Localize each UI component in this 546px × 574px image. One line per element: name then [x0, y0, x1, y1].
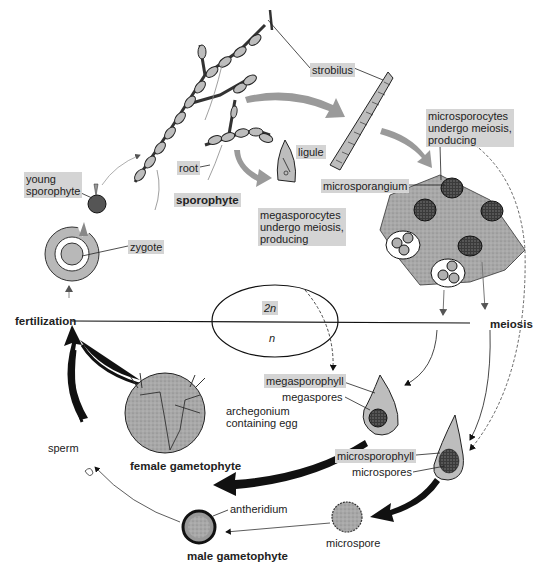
young-sporophyte-line-1: young: [26, 173, 56, 185]
label-microspores: microspores: [352, 466, 412, 478]
label-strobilus: strobilus: [310, 63, 355, 77]
strobilus-drawing: [328, 71, 393, 170]
female-gametophyte-drawing: [125, 373, 205, 453]
sporophyte-plant: [132, 10, 274, 210]
ploidy-divider: [72, 285, 470, 357]
label-ligule: ligule: [296, 145, 326, 159]
label-haploid: n: [269, 332, 275, 344]
megasporocytes-line-1: megasporocytes: [260, 209, 341, 221]
label-male-gametophyte: male gametophyte: [187, 550, 288, 562]
label-megasporophyll: megasporophyll: [264, 374, 346, 388]
microsporophyll-drawing: [434, 415, 464, 480]
zygote-archegonium-drawing: [45, 184, 106, 298]
megasporocytes-line-2: undergo meiosis,: [260, 221, 344, 233]
archegonium-line-1: archegonium: [226, 405, 290, 417]
label-sperm: sperm: [48, 442, 79, 454]
label-microsporophyll: microsporophyll: [335, 449, 416, 463]
diagram-artwork: [0, 0, 546, 574]
microsporocytes-line-2: undergo meiosis,: [428, 122, 512, 134]
label-meiosis: meiosis: [490, 318, 533, 330]
male-gametophyte-drawing: [183, 511, 215, 543]
megasporophyll-drawing: [363, 375, 398, 435]
label-megasporocytes: megasporocytes undergo meiosis, producin…: [258, 208, 346, 246]
label-fertilization: fertilization: [15, 315, 76, 327]
young-sporophyte-line-2: sporophyte: [26, 185, 80, 197]
ligule-drawing: [277, 140, 295, 182]
megasporocytes-line-3: producing: [260, 233, 308, 245]
label-archegonium: archegonium containing egg: [226, 405, 298, 429]
label-megaspores: megaspores: [282, 391, 343, 403]
label-sporophyte: sporophyte: [174, 193, 241, 207]
label-microsporocytes: microsporocytes undergo meiosis, produci…: [426, 109, 514, 147]
label-zygote: zygote: [128, 240, 164, 254]
life-cycle-diagram: strobilus ligule root sporophyte young s…: [0, 0, 546, 574]
label-female-gametophyte: female gametophyte: [130, 460, 241, 472]
microsporocytes-line-3: producing: [428, 134, 476, 146]
sperm-drawing: [85, 468, 93, 475]
label-young-sporophyte: young sporophyte: [24, 172, 82, 198]
microsporocytes-line-1: microsporocytes: [428, 110, 508, 122]
label-root: root: [177, 161, 200, 175]
label-microspore: microspore: [326, 537, 380, 549]
archegonium-line-2: containing egg: [226, 417, 298, 429]
label-microsporangium: microsporangium: [321, 179, 409, 193]
label-antheridium: antheridium: [230, 503, 287, 515]
label-diploid: 2n: [262, 301, 278, 315]
microspore-drawing: [332, 502, 362, 532]
